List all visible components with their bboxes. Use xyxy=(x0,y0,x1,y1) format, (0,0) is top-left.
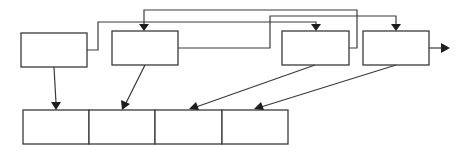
block-b xyxy=(112,31,178,65)
cell-m1 xyxy=(23,110,89,144)
arrowhead-icon xyxy=(51,102,61,110)
cell-m4 xyxy=(222,110,288,144)
block-a xyxy=(21,33,87,67)
cell-m2 xyxy=(89,110,155,144)
arrowhead-icon xyxy=(189,102,199,110)
connector-d-to-m4 xyxy=(261,65,396,107)
memory-row xyxy=(23,110,288,144)
cell-m3 xyxy=(155,110,222,144)
arrowhead-icon xyxy=(391,24,401,31)
arrowhead-icon xyxy=(254,102,264,110)
connector-c-to-m3 xyxy=(196,65,315,107)
block-diagram xyxy=(0,0,466,151)
arrowhead-icon xyxy=(121,100,130,110)
connector-a-to-m1 xyxy=(54,67,56,103)
arrowhead-icon xyxy=(311,24,321,31)
block-c xyxy=(282,31,349,65)
arrowhead-icon xyxy=(441,43,450,53)
block-d xyxy=(363,31,429,65)
connector-b-to-m2 xyxy=(126,65,145,103)
arrowhead-icon xyxy=(139,24,149,31)
